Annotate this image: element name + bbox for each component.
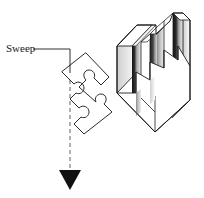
solid-lower-sliver-2 — [150, 76, 155, 104]
solid-dark-band-1 — [132, 46, 136, 93]
sweep-label: Sweep — [6, 42, 36, 54]
solid-lower-sliver-1 — [136, 89, 141, 116]
solid-dark-band-2 — [173, 13, 178, 60]
sweep-extrusion-diagram: Sweep — [0, 0, 204, 198]
